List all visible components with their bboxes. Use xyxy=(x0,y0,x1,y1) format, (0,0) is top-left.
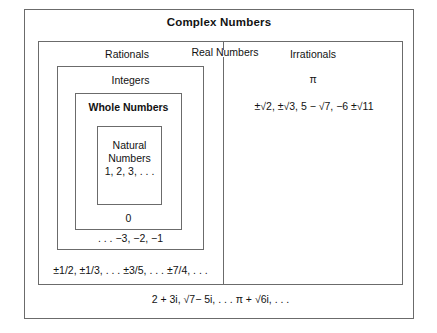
integers-examples: . . . −3, −2, −1 xyxy=(57,232,204,244)
rationals-irrationals-divider xyxy=(223,57,224,285)
rationals-label: Rationals xyxy=(72,48,182,60)
irrationals-label: Irrationals xyxy=(263,48,363,60)
complex-numbers-examples: 2 + 3i, √7− 5i, . . . π + √6i, . . . xyxy=(38,293,403,305)
diagram-title: Complex Numbers xyxy=(24,16,414,28)
irrationals-examples: ±√2, ±√3, 5 − √7, −6 ±√11 xyxy=(229,100,399,112)
whole-numbers-examples: 0 xyxy=(75,212,182,224)
natural-numbers-label: Natural Numbers 1, 2, 3, . . . xyxy=(97,139,162,178)
rationals-examples: ±1/2, ±1/3, . . . ±3/5, . . . ±7/4, . . … xyxy=(38,264,223,276)
whole-numbers-label: Whole Numbers xyxy=(72,101,185,113)
integers-label: Integers xyxy=(57,74,204,86)
natural-numbers-examples: 1, 2, 3, . . . xyxy=(97,165,162,178)
natural-numbers-label-line1: Natural xyxy=(97,139,162,152)
natural-numbers-label-line2: Numbers xyxy=(97,152,162,165)
diagram-canvas: Complex Numbers Real Numbers Rationals I… xyxy=(0,0,437,333)
real-numbers-label: Real Numbers xyxy=(180,46,270,58)
irrationals-pi-example: π xyxy=(263,73,363,85)
